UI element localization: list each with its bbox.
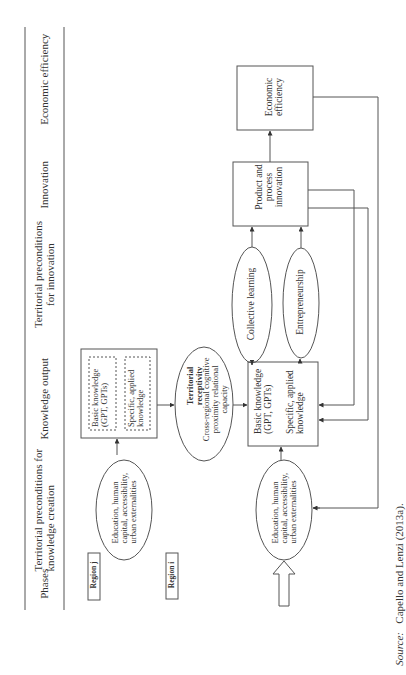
header-territorial-preconditions-knowledge: Territorial preconditions for knowledge … bbox=[33, 432, 56, 572]
entrepreneurship-label: Entrepreneurship bbox=[296, 252, 306, 352]
region-i-basic-knowledge-label: Basic knowledge (GPT, GPTs) bbox=[254, 354, 274, 434]
region-j-preconditions-label: Education, human capital, accessibility,… bbox=[111, 463, 138, 543]
source-label: Source: bbox=[393, 632, 405, 666]
economic-efficiency-label: Economic efficiency bbox=[265, 67, 285, 127]
region-j-label: Region j bbox=[90, 551, 98, 599]
region-j-basic-knowledge-label: Basic knowledge (GPT, GPTs) bbox=[91, 359, 109, 427]
source-caption: Source: Capello and Lenzi (2013a). bbox=[394, 466, 406, 666]
header-innovation: Innovation bbox=[39, 154, 51, 216]
input-hollow-arrow bbox=[273, 561, 295, 606]
feedback-innovation-line-2 bbox=[308, 208, 368, 420]
region-i-specific-knowledge-label: Specific, applied knowledge bbox=[286, 354, 306, 434]
region-i-preconditions-label: Education, human capital, accessibility,… bbox=[271, 463, 298, 543]
header-economic-efficiency: Economic efficiency bbox=[39, 63, 51, 125]
header-phases: Phases bbox=[39, 553, 51, 615]
header-territorial-preconditions-innovation: Territorial preconditions for innovation bbox=[33, 215, 56, 335]
diagram-canvas bbox=[0, 0, 406, 675]
collective-learning-label: Collective learning bbox=[247, 254, 257, 354]
feedback-innovation-line-1 bbox=[308, 190, 354, 405]
region-j-specific-knowledge-label: Specific, applied knowledge bbox=[127, 359, 145, 427]
region-i-label: Region i bbox=[168, 551, 176, 599]
source-text: Capello and Lenzi (2013a). bbox=[393, 503, 405, 623]
territorial-receptivity-body: Cross-regional cognitive proximity relat… bbox=[202, 354, 229, 444]
product-innovation-label: Product and process innovation bbox=[255, 153, 285, 221]
